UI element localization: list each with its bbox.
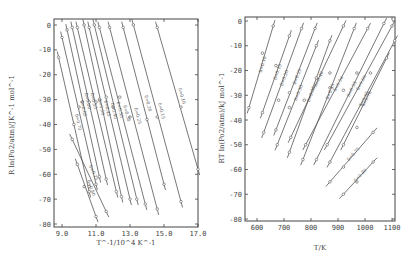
- data-point: [272, 25, 275, 28]
- x-tick-label: 15.0: [156, 230, 173, 238]
- data-point: [78, 106, 81, 109]
- series-line: [70, 134, 109, 217]
- y-tick-label: -70: [229, 191, 242, 199]
- y-tick-label: -10: [229, 42, 242, 50]
- data-point: [288, 151, 291, 154]
- data-point: [304, 143, 307, 146]
- x-tick-label: 800: [305, 224, 318, 232]
- y-tick-label: -10: [38, 46, 51, 54]
- data-point: [119, 96, 122, 99]
- data-point: [289, 136, 292, 139]
- data-point: [315, 158, 318, 161]
- data-point: [314, 27, 317, 30]
- x-tick-label: 17.0: [190, 230, 207, 238]
- data-point: [342, 25, 345, 28]
- y-tick-label: -30: [229, 92, 242, 100]
- data-point: [276, 143, 279, 146]
- data-point: [300, 27, 303, 30]
- data-point: [57, 56, 60, 59]
- y-tick-label: -80: [38, 221, 51, 229]
- y-tick-label: -70: [38, 196, 51, 204]
- left-chart: 9.011.013.015.017.00-10-20-30-40-50-60-7…: [8, 19, 206, 247]
- data-point: [120, 195, 123, 198]
- y-tick-label: 0: [47, 22, 51, 30]
- series-label: δ=0.80: [86, 179, 96, 196]
- data-point: [329, 181, 332, 184]
- data-point: [356, 72, 359, 75]
- series-label: δ=0.40: [313, 70, 325, 87]
- data-point: [98, 26, 101, 29]
- data-point: [329, 72, 332, 75]
- data-point: [76, 163, 79, 166]
- data-point: [342, 89, 345, 92]
- data-point: [366, 27, 369, 30]
- plot-frame: [245, 17, 395, 221]
- y-axis-label: R ln(Po2/atm)/JK^-1 mol^-1: [8, 75, 16, 175]
- data-point: [393, 40, 396, 43]
- y-tick-label: -50: [38, 146, 51, 154]
- data-point: [385, 57, 388, 60]
- series-label: δ=0.10: [258, 56, 268, 73]
- data-point: [105, 210, 108, 213]
- right-chart: 600700800900100011000-10-20-30-40-50-60-…: [218, 17, 400, 252]
- series-line: [156, 22, 200, 175]
- data-point: [136, 198, 139, 201]
- x-tick-label: 600: [251, 224, 264, 232]
- data-point: [383, 22, 386, 25]
- data-point: [93, 24, 96, 27]
- data-point: [356, 126, 359, 129]
- data-point: [156, 116, 159, 119]
- data-point: [108, 26, 111, 29]
- data-point: [261, 111, 264, 114]
- y-tick-label: -30: [38, 96, 51, 104]
- x-tick-label: 11.0: [88, 230, 105, 238]
- y-tick-label: -60: [229, 166, 242, 174]
- data-point: [163, 183, 166, 186]
- series-label: δ=0.20: [279, 69, 289, 86]
- data-point: [342, 193, 345, 196]
- data-point: [66, 29, 69, 32]
- series-label: δ=0.30: [293, 84, 304, 101]
- data-point: [342, 143, 345, 146]
- data-point: [61, 36, 64, 39]
- x-tick-label: 9.0: [56, 230, 69, 238]
- data-point: [288, 106, 291, 109]
- series-label: δ=0.70: [74, 114, 83, 131]
- data-point: [71, 26, 74, 29]
- data-point: [105, 96, 108, 99]
- x-tick-label: 13.0: [122, 230, 139, 238]
- data-point: [372, 131, 375, 134]
- data-point: [83, 24, 86, 27]
- figure: 9.011.013.015.017.00-10-20-30-40-50-60-7…: [0, 0, 412, 267]
- x-axis-label: T^-1/10^4 K^-1: [96, 239, 155, 247]
- data-point: [115, 190, 118, 193]
- x-tick-label: 700: [278, 224, 291, 232]
- data-point: [122, 26, 125, 29]
- data-point: [180, 106, 183, 109]
- data-point: [277, 99, 280, 102]
- data-point: [248, 106, 251, 109]
- data-point: [88, 26, 91, 29]
- y-tick-label: -50: [229, 141, 242, 149]
- y-tick-label: -20: [229, 67, 242, 75]
- data-point: [391, 25, 394, 28]
- data-point: [372, 161, 375, 164]
- data-point: [180, 200, 183, 203]
- data-point: [73, 123, 76, 126]
- data-point: [262, 131, 265, 134]
- data-point: [275, 129, 278, 132]
- data-point: [197, 168, 200, 171]
- data-point: [261, 52, 264, 55]
- data-point: [156, 26, 159, 29]
- data-point: [129, 198, 132, 201]
- y-tick-label: -80: [229, 216, 242, 224]
- data-point: [329, 161, 332, 164]
- y-tick-label: -20: [38, 71, 51, 79]
- data-point: [95, 183, 98, 186]
- data-point: [146, 118, 149, 121]
- data-point: [315, 44, 318, 47]
- data-point: [71, 138, 74, 141]
- data-point: [288, 91, 291, 94]
- series-label: δ=0.75: [346, 146, 361, 162]
- x-tick-label: 1100: [384, 224, 401, 232]
